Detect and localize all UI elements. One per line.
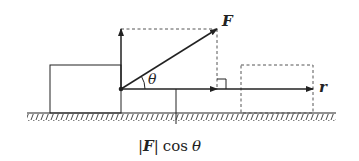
force-arrow xyxy=(121,29,217,89)
angle-arc xyxy=(142,77,146,90)
force-label: F xyxy=(222,14,233,29)
origin-point xyxy=(119,87,124,92)
displacement-label: r xyxy=(319,80,327,95)
projection-angle-symbol: θ xyxy=(192,137,201,155)
cos-text: cos xyxy=(163,137,188,155)
work-force-diagram: F r θ |F| cos θ xyxy=(0,0,359,161)
angle-label: θ xyxy=(148,72,156,86)
abs-bar-right: | xyxy=(154,137,159,155)
initial-box xyxy=(50,65,121,113)
projection-force-symbol: F xyxy=(143,137,154,155)
ground xyxy=(27,113,336,121)
right-angle-marker xyxy=(217,79,226,89)
projection-label: |F| cos θ xyxy=(138,137,201,155)
